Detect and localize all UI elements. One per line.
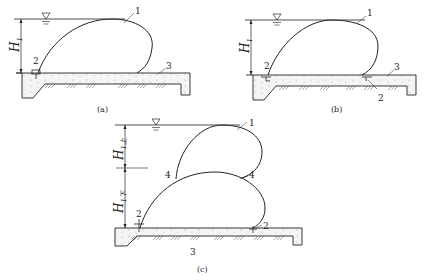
label-anchor-right: 2 [263,221,269,231]
label-upper-membrane: 1 [249,118,255,128]
panel-a: H1 1 2 3 (a) [8,6,190,114]
rubber-dam-diagram: H1 1 2 3 (a) [0,0,424,280]
head-label: H1 [8,37,24,53]
label-anchor-left: 2 [264,61,270,71]
rubber-membrane [268,20,378,75]
label-floor: 3 [166,61,172,71]
caption-a: (a) [97,105,108,114]
label-anchor: 2 [33,56,39,66]
label-membrane: 1 [135,6,141,16]
ground-hatch [131,236,284,240]
label-anchor-left: 2 [136,209,142,219]
rubber-membrane [38,19,152,73]
label-junction-left: 4 [165,170,171,180]
caption-b: (b) [331,105,342,114]
caption-c: (c) [197,265,208,274]
concrete-floor [16,73,190,98]
ground-hatch [45,84,166,88]
water-level-icon [42,13,50,24]
label-floor: 3 [190,247,196,257]
head-lower-label: H1下 [112,190,128,214]
ground-hatch [279,86,398,90]
head-label: H1 [238,38,254,54]
label-floor: 3 [394,62,400,72]
water-level-icon [273,14,281,25]
concrete-floor [115,228,302,246]
panel-b: H1 1 2 2 3 (b) [238,8,416,114]
label-junction-right: 4 [249,170,255,180]
water-level-icon [152,119,160,130]
label-membrane: 1 [367,8,373,18]
panel-c: H1上 H1下 1 4 [112,118,302,274]
lower-membrane [140,172,265,228]
label-anchor-right: 2 [378,93,384,103]
head-upper-label: H1上 [112,137,128,161]
